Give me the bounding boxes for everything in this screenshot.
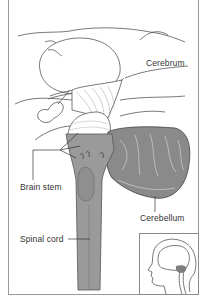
cerebellum-highlight <box>176 265 186 273</box>
cerebellum <box>106 127 190 198</box>
brain-stem <box>66 134 114 290</box>
brain-stem-label: Brain stem <box>20 182 62 192</box>
cerebrum-label: Cerebrum <box>146 58 185 68</box>
olfactory-bulb <box>38 102 64 123</box>
head-inset <box>139 233 199 295</box>
olive <box>78 167 94 201</box>
cerebellum-label: Cerebellum <box>140 213 184 223</box>
cerebrum-contour <box>18 28 185 42</box>
spinal-cord-label: Spinal cord <box>20 234 64 244</box>
head-silhouette-icon <box>140 234 200 296</box>
